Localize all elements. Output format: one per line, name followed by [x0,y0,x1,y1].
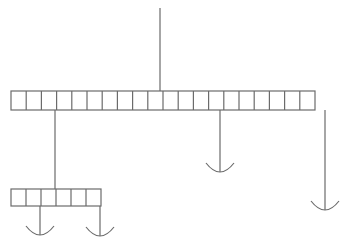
mobile-diagram [0,0,346,243]
